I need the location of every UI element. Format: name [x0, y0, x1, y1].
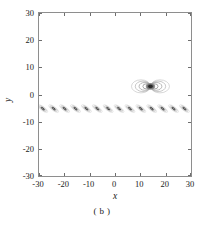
- tick-y-3: [39, 95, 42, 96]
- band-blob-contour: [48, 103, 60, 113]
- tick-x-2: [90, 173, 91, 176]
- tick-x-4: [140, 173, 141, 176]
- band-blob-contour: [124, 103, 136, 113]
- y-tick-label-3: 0: [14, 90, 34, 99]
- band-blob-contour: [70, 103, 82, 113]
- band-blob-contour: [179, 103, 191, 113]
- y-tick-label-4: -10: [11, 117, 34, 126]
- tick-x-3: [115, 173, 116, 176]
- band-blob-contour: [80, 103, 92, 113]
- tick-x-5: [166, 173, 167, 176]
- tick-y-right-0: [188, 13, 191, 14]
- tick-x-top-3: [115, 13, 116, 16]
- band-blob-contour: [168, 103, 180, 113]
- y-tick-label-5: -20: [11, 144, 34, 153]
- tick-x-top-4: [140, 13, 141, 16]
- x-tick-label-0: -30: [32, 180, 43, 189]
- x-tick-label-6: 30: [186, 180, 195, 189]
- x-tick-label-1: -20: [58, 180, 69, 189]
- x-tick-label-5: 20: [160, 180, 169, 189]
- y-tick-label-2: 10: [14, 63, 34, 72]
- tick-x-top-2: [90, 13, 91, 16]
- band-blob-contour: [146, 103, 158, 113]
- figure-container: -30 -20 -10 0 10 20 30 30 20 10 0 -10 -2…: [0, 0, 204, 225]
- band-blob-contour: [157, 103, 169, 113]
- contour-plot-canvas: [39, 13, 191, 176]
- y-tick-label-0: 30: [14, 9, 34, 18]
- y-tick-label-6: -30: [11, 172, 34, 181]
- tick-y-6: [39, 175, 42, 176]
- x-tick-label-4: 10: [135, 180, 144, 189]
- x-tick-label-2: -10: [83, 180, 94, 189]
- figure-caption: ( b ): [94, 206, 111, 216]
- tick-y-5: [39, 149, 42, 150]
- plot-frame: [38, 12, 192, 177]
- tick-y-right-4: [188, 122, 191, 123]
- tick-y-right-2: [188, 67, 191, 68]
- band-blob-contour: [91, 103, 103, 113]
- tick-x-top-1: [64, 13, 65, 16]
- x-axis-title: x: [113, 191, 117, 201]
- y-axis-title: y: [3, 98, 13, 102]
- tick-y-right-5: [188, 149, 191, 150]
- band-blob-contour: [113, 103, 125, 113]
- band-blob-contour: [135, 103, 147, 113]
- tick-y-2: [39, 67, 42, 68]
- tick-y-1: [39, 40, 42, 41]
- tick-y-right-3: [188, 95, 191, 96]
- y-tick-label-1: 20: [14, 36, 34, 45]
- tick-y-4: [39, 122, 42, 123]
- band-blob-contour: [59, 103, 71, 113]
- tick-y-right-6: [188, 175, 191, 176]
- band-blob-contour: [102, 103, 114, 113]
- tick-x-top-5: [166, 13, 167, 16]
- tick-x-1: [64, 173, 65, 176]
- tick-y-right-1: [188, 40, 191, 41]
- x-tick-label-3: 0: [112, 180, 116, 189]
- tick-y-0: [39, 13, 42, 14]
- dipole-peak-marker: [148, 85, 153, 88]
